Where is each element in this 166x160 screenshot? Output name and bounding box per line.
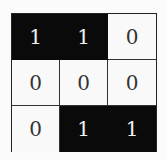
grid-cell-0-1: 1 — [60, 14, 108, 60]
grid-cell-0-2: 0 — [108, 14, 156, 60]
grid-cell-2-0: 0 — [12, 106, 60, 152]
grid-cell-2-2: 1 — [108, 106, 156, 152]
grid-cell-1-2: 0 — [108, 60, 156, 106]
grid-cell-1-1: 0 — [60, 60, 108, 106]
binary-grid: 1 1 0 0 0 0 0 1 1 — [11, 13, 157, 152]
grid-cell-0-0: 1 — [12, 14, 60, 60]
grid-cell-2-1: 1 — [60, 106, 108, 152]
grid-cell-1-0: 0 — [12, 60, 60, 106]
